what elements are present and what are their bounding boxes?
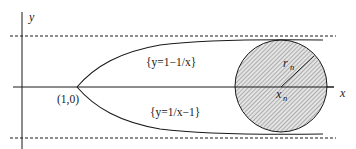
point-label: (1,0) [57, 93, 79, 106]
svg-text:r: r [283, 56, 288, 70]
diagram-svg: y x (1,0) {y=1−1/x} {y=1/x−1} r n x n [0, 0, 356, 149]
svg-text:x: x [275, 87, 282, 101]
hatched-circle [235, 40, 327, 132]
x-axis-label: x [339, 86, 346, 100]
lower-curve-label: {y=1/x−1} [150, 106, 200, 119]
svg-text:n: n [290, 62, 294, 72]
y-axis-label: y [28, 10, 35, 24]
diagram-canvas: y x (1,0) {y=1−1/x} {y=1/x−1} r n x n [0, 0, 356, 149]
svg-text:n: n [283, 93, 287, 103]
upper-curve-label: {y=1−1/x} [146, 56, 196, 69]
